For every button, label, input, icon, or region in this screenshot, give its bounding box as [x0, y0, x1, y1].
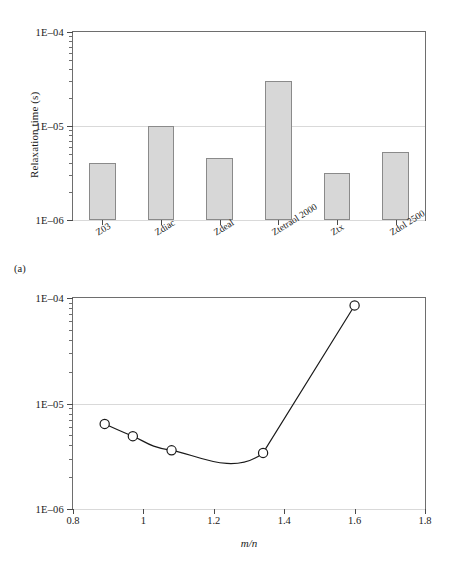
y-axis-tick-minor	[69, 192, 73, 193]
bar-zdeal	[206, 158, 233, 220]
data-point-marker	[167, 446, 176, 455]
x-axis-tick	[425, 509, 426, 514]
panel-b-line-chart: Relaxation time (s) 1E–041E–051E–060.811…	[0, 285, 456, 579]
x-axis-tick	[214, 509, 215, 514]
y-axis-tick-minor	[69, 53, 73, 54]
panel-a-caption: (a)	[14, 263, 26, 274]
x-axis-tick-label: 1.8	[418, 515, 431, 526]
y-axis-tick-minor	[69, 135, 73, 136]
x-axis-tick	[143, 509, 144, 514]
x-axis-tick-label: 0.8	[66, 515, 79, 526]
x-axis-tick	[284, 509, 285, 514]
y-axis-tick-minor	[69, 141, 73, 142]
y-axis-tick-minor	[69, 69, 73, 70]
y-axis-tick-label: 1E–05	[36, 398, 64, 409]
x-axis-tick-label: 1	[141, 515, 146, 526]
data-point-marker	[100, 419, 109, 428]
bar-ztetraol-2000	[265, 81, 292, 220]
gridline	[73, 509, 425, 510]
y-axis-tick-minor	[69, 163, 73, 164]
data-line	[105, 305, 355, 463]
y-axis-tick-major	[67, 32, 73, 33]
y-axis-tick-label: 1E–06	[36, 504, 64, 515]
x-axis-category-label: Ztx	[329, 222, 345, 237]
bar-ztx	[324, 173, 351, 220]
y-axis-tick-minor	[69, 47, 73, 48]
y-axis-tick-minor	[69, 41, 73, 42]
x-axis-tick	[73, 509, 74, 514]
y-axis-tick-minor	[69, 81, 73, 82]
bar-z03	[89, 163, 116, 220]
bar-zdiac	[148, 126, 175, 220]
x-axis-tick-label: 1.4	[278, 515, 291, 526]
y-axis-tick-label: 1E–06	[36, 215, 64, 226]
y-axis-tick-minor	[69, 175, 73, 176]
y-axis-tick-minor	[69, 154, 73, 155]
panel-b-x-axis-title: m/n	[241, 537, 258, 549]
y-axis-tick-minor	[69, 36, 73, 37]
panel-a-plot-area: 1E–041E–051E–06Z03ZdiacZdealZtetraol 200…	[72, 31, 426, 221]
y-axis-tick-minor	[69, 130, 73, 131]
panel-b-plot-area: 1E–041E–051E–060.811.21.41.61.8m/n	[72, 297, 426, 510]
y-axis-tick-minor	[69, 98, 73, 99]
x-axis-tick	[355, 509, 356, 514]
y-axis-tick-label: 1E–05	[36, 121, 64, 132]
data-point-marker	[350, 301, 359, 310]
x-axis-tick-label: 1.2	[207, 515, 220, 526]
panel-a-bar-chart: Relaxation time (s) 1E–041E–051E–06Z03Zd…	[0, 0, 456, 290]
data-point-marker	[258, 448, 267, 457]
gridline	[73, 220, 425, 221]
x-axis-category-label: Z03	[94, 221, 112, 238]
gridline	[73, 126, 425, 127]
y-axis-tick-label: 1E–04	[36, 27, 64, 38]
bar-zdol-2500	[382, 152, 409, 220]
x-axis-tick-label: 1.6	[348, 515, 361, 526]
y-axis-tick-minor	[69, 147, 73, 148]
data-point-marker	[128, 432, 137, 441]
y-axis-tick-label: 1E–04	[36, 293, 64, 304]
line-series-svg	[73, 298, 425, 509]
figure-two-panel-relaxation-time: Relaxation time (s) 1E–041E–051E–06Z03Zd…	[0, 0, 456, 579]
panel-a-y-axis-title: Relaxation time (s)	[28, 92, 40, 178]
y-axis-tick-minor	[69, 60, 73, 61]
